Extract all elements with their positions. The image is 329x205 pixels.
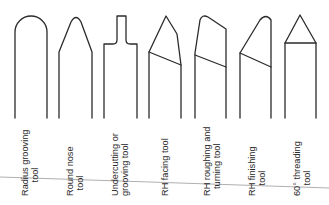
rh-roughing-cutting-edge [195, 55, 226, 67]
threading-profile [285, 15, 316, 118]
tool-round-nose: Round nose tool [59, 18, 92, 197]
round-nose-label: Round nose [65, 146, 75, 196]
radius-grooving-label-2: tool [30, 168, 40, 183]
radius-grooving-label: Radius grooving [20, 130, 30, 196]
round-nose-label-2: tool [75, 176, 85, 191]
undercutting-profile [104, 16, 137, 118]
tool-rh-finishing: RH finishing tool [240, 17, 271, 197]
rh-facing-label: RH facing tool [160, 138, 170, 196]
rh-roughing-label: RH roughing and [202, 127, 212, 196]
tool-undercutting: Undercutting or grooving tool [104, 16, 137, 196]
rh-finishing-label: RH finishing [247, 146, 257, 196]
tool-threading-60: 60° threading tool [285, 15, 316, 196]
threading-label: 60° threading [292, 141, 302, 196]
rh-finishing-cutting-edge [240, 53, 271, 67]
rh-facing-profile [149, 16, 181, 118]
rh-roughing-label-2: turning tool [212, 144, 222, 189]
undercutting-label-2: grooving tool [120, 143, 130, 196]
rh-finishing-label-2: tool [257, 171, 267, 186]
rh-roughing-profile [195, 16, 226, 118]
tool-profiles-diagram: Radius grooving tool Round nose tool Und… [0, 0, 329, 205]
threading-label-2: tool [302, 171, 312, 186]
tool-rh-facing: RH facing tool [149, 16, 181, 196]
tool-rh-roughing: RH roughing and turning tool [195, 16, 226, 196]
rh-finishing-profile [240, 17, 271, 119]
round-nose-profile [59, 18, 92, 119]
radius-grooving-profile [15, 16, 47, 118]
undercutting-label: Undercutting or [110, 133, 120, 196]
rh-facing-cutting-edge [149, 52, 181, 65]
tool-radius-grooving: Radius grooving tool [15, 16, 47, 196]
